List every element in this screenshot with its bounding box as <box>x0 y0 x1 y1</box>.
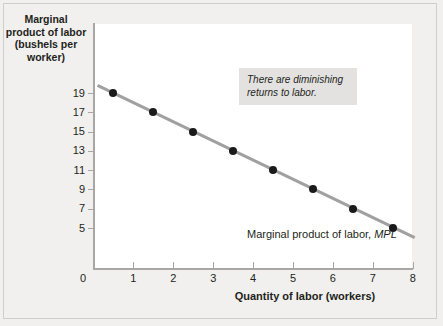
x-tick <box>133 262 134 269</box>
x-tick-label: 1 <box>121 272 145 284</box>
x-tick-label: 8 <box>401 272 425 284</box>
y-tick <box>88 112 94 113</box>
x-tick-label: 6 <box>321 272 345 284</box>
data-point <box>229 147 237 155</box>
y-tick <box>88 189 94 190</box>
x-tick-label: 2 <box>161 272 185 284</box>
y-tick-label: 5 <box>55 223 85 234</box>
x-tick <box>253 262 254 269</box>
y-axis-title-line-4: worker) <box>2 51 90 64</box>
x-tick <box>173 262 174 269</box>
series-label-mpl: MPL <box>374 228 397 240</box>
x-tick-label: 7 <box>361 272 385 284</box>
x-tick <box>333 262 334 269</box>
y-tick-label: 19 <box>55 88 85 99</box>
x-tick <box>293 262 294 269</box>
y-tick-label: 9 <box>55 184 85 195</box>
y-tick <box>88 93 94 94</box>
y-tick-label: 7 <box>55 203 85 214</box>
y-axis-title-line-3: (bushels per <box>2 38 90 51</box>
figure-container: Marginal product of labor (bushels per w… <box>0 0 443 326</box>
x-tick-label: 3 <box>201 272 225 284</box>
x-axis-title: Quantity of labor (workers) <box>180 290 430 302</box>
y-tick <box>88 151 94 152</box>
y-tick <box>88 228 94 229</box>
y-tick-label: 13 <box>55 145 85 156</box>
y-tick <box>88 132 94 133</box>
y-tick-label: 15 <box>55 126 85 137</box>
y-axis-line <box>93 23 95 270</box>
y-axis-title-line-1: Marginal <box>2 13 90 26</box>
y-axis-title-line-2: product of labor <box>2 26 90 39</box>
x-axis-origin-label: 0 <box>73 272 93 284</box>
series-label: Marginal product of labor, MPL <box>247 228 397 240</box>
y-tick <box>88 209 94 210</box>
x-tick <box>373 262 374 269</box>
y-tick-label: 11 <box>55 165 85 176</box>
note-line-1: There are diminishing <box>247 73 350 86</box>
x-tick-label: 5 <box>281 272 305 284</box>
note-line-2: returns to labor. <box>247 86 350 99</box>
data-point <box>189 128 197 136</box>
y-axis-title: Marginal product of labor (bushels per w… <box>2 13 90 63</box>
data-point <box>349 205 357 213</box>
x-tick <box>213 262 214 269</box>
y-tick <box>88 170 94 171</box>
x-tick <box>413 262 414 269</box>
series-label-text: Marginal product of labor, <box>247 228 374 240</box>
y-tick-label: 17 <box>55 107 85 118</box>
x-tick-label: 4 <box>241 272 265 284</box>
diminishing-returns-note: There are diminishing returns to labor. <box>239 68 357 105</box>
